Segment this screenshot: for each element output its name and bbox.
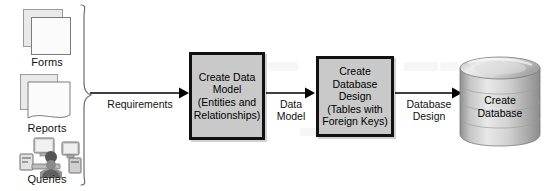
- stacked-report-pages-icon: [27, 81, 71, 123]
- stacked-pages-icon: [31, 17, 71, 55]
- input-item-queries[interactable]: [8, 134, 86, 178]
- arrow-label-data-model: Data Model: [266, 98, 316, 122]
- arrow-label-database-design: Database Design: [394, 98, 464, 122]
- process-line: Foreign Keys): [322, 115, 387, 128]
- input-label-reports: Reports: [8, 122, 86, 134]
- arrow-label-requirements: Requirements: [90, 98, 190, 110]
- datastore-create-database[interactable]: Create Database: [458, 56, 542, 148]
- process-line: (Entities and: [194, 96, 261, 109]
- datastore-line: Database: [458, 107, 542, 120]
- background-watermark: [440, 62, 458, 71]
- process-line: Relationships): [194, 109, 261, 122]
- users-at-computers-icon: [18, 134, 84, 178]
- process-line: Create: [322, 65, 387, 78]
- input-label-queries: Queries: [8, 173, 86, 185]
- input-label-forms: Forms: [8, 56, 86, 68]
- process-create-data-model-label: Create Data Model (Entities and Relation…: [192, 71, 263, 121]
- datastore-label: Create Database: [458, 94, 542, 119]
- process-line: Design: [322, 90, 387, 103]
- process-line: Create Data: [194, 71, 261, 84]
- background-watermark: [404, 62, 438, 71]
- background-watermark: [268, 62, 298, 71]
- process-line: Database: [322, 78, 387, 91]
- process-line: Model: [194, 83, 261, 96]
- process-create-database-design[interactable]: Create Database Design (Tables with Fore…: [316, 56, 394, 137]
- process-line: (Tables with: [322, 103, 387, 116]
- datastore-line: Create: [458, 94, 542, 107]
- process-create-database-design-label: Create Database Design (Tables with Fore…: [320, 65, 389, 128]
- process-create-data-model[interactable]: Create Data Model (Entities and Relation…: [189, 52, 265, 140]
- diagram-canvas: Forms Reports: [0, 0, 547, 191]
